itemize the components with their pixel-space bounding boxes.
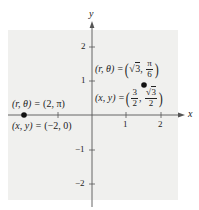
fraction-sqrt3-2: √3 2 (145, 88, 157, 108)
x-axis-label: x (188, 109, 192, 119)
x-axis-arrow-icon (178, 113, 185, 118)
close-paren: ) (155, 61, 159, 78)
polar-label-lhs: (r, θ) = (95, 64, 124, 74)
polar-label-rhs: (2, π) (43, 98, 65, 109)
fraction-pi-6: π 6 (146, 59, 153, 79)
rect-label-point1: (x, y) = (−2, 0) (12, 121, 72, 131)
sqrt-3: √3 (129, 64, 140, 74)
y-tick-label-2: 2 (81, 42, 86, 51)
open-paren: ( (124, 61, 128, 78)
polar-label-point1: (r, θ) = (2, π) (12, 99, 65, 109)
x-tick-label-2: 2 (158, 120, 163, 129)
point-neg2-0 (21, 112, 27, 118)
y-tick-label-neg2: −2 (75, 179, 85, 188)
y-tick-label-neg1: −1 (75, 145, 85, 154)
y-tick-label-1: 1 (81, 76, 86, 85)
y-axis-label: y (89, 9, 93, 19)
rect-label-rhs: (−2, 0) (44, 120, 71, 131)
x-tick-label-1: 1 (123, 120, 128, 129)
polar-label-lhs: (r, θ) = (12, 98, 43, 109)
rect-label-lhs: (x, y) = (95, 93, 125, 103)
polar-label-point2: (r, θ) = ( √3, π 6 ) (95, 59, 160, 79)
close-paren: ) (159, 90, 163, 107)
open-paren: ( (126, 90, 130, 107)
coordinate-diagram: y x 1 2 2 1 −1 −2 (r, θ) = (2, π) (x, y)… (0, 0, 199, 210)
rect-label-lhs: (x, y) = (12, 120, 44, 131)
fraction-3-2: 3 2 (131, 88, 138, 108)
rect-label-point2: (x, y) = ( 3 2 , √3 2 ) (95, 88, 164, 108)
y-axis-arrow-icon (90, 21, 95, 28)
